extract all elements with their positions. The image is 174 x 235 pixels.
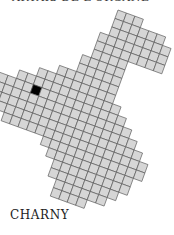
commune-grid-map bbox=[0, 0, 174, 235]
commune-label: CHARNY bbox=[10, 208, 69, 222]
grid-cells bbox=[0, 0, 174, 224]
